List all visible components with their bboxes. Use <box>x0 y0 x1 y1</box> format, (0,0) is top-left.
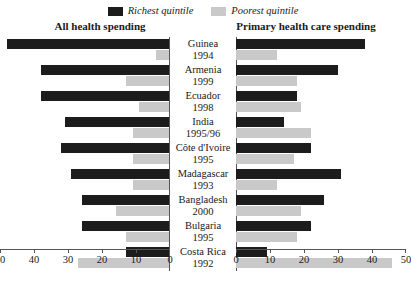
axis-tick-label: 10 <box>265 254 276 265</box>
axis-tick <box>304 249 305 253</box>
chart-row-left-panel <box>0 37 170 63</box>
axis-tick-label: 30 <box>333 254 344 265</box>
axis-tick <box>405 249 406 253</box>
axis-rule-left <box>169 219 170 245</box>
category-label: Côte d'Ivoire1995 <box>170 141 236 167</box>
bar-poorest-primary-health-care-spending <box>236 102 301 112</box>
chart-plot-area: Guinea1994Armenia1999Ecuador1998India199… <box>0 37 406 249</box>
category-label-year: 2000 <box>170 206 236 218</box>
chart-row-left-panel <box>0 193 170 219</box>
panel-title-all-health-spending: All health spending <box>0 20 200 32</box>
bar-poorest-primary-health-care-spending <box>236 206 301 216</box>
axis-tick-label: 50 <box>401 254 411 265</box>
bar-richest-all-health-spending <box>82 221 170 231</box>
category-label: India1995/96 <box>170 115 236 141</box>
bar-poorest-all-health-spending <box>133 154 170 164</box>
bar-richest-primary-health-care-spending <box>236 195 324 205</box>
bar-poorest-all-health-spending <box>126 76 170 86</box>
bar-richest-all-health-spending <box>7 39 170 49</box>
chart-row: Guinea1994 <box>0 37 406 63</box>
bar-poorest-primary-health-care-spending <box>236 50 277 60</box>
chart-row: Armenia1999 <box>0 63 406 89</box>
axis-tick-label: 30 <box>63 254 74 265</box>
axis-tick <box>136 249 137 253</box>
chart-row-right-panel <box>236 141 406 167</box>
chart-row: Bulgaria1995 <box>0 219 406 245</box>
axis-tick <box>169 249 170 253</box>
axis-tick-label: 20 <box>299 254 310 265</box>
axis-tick-label: 40 <box>367 254 378 265</box>
axis-tick-label: 50 <box>0 254 5 265</box>
chart-legend: Richest quintile Poorest quintile <box>0 0 406 20</box>
axis-tick-label: 10 <box>131 254 142 265</box>
axis-tick-label: 0 <box>233 254 238 265</box>
axis-tick-label: 20 <box>97 254 108 265</box>
axis-tick <box>338 249 339 253</box>
chart-row: Ecuador1998 <box>0 89 406 115</box>
bar-richest-primary-health-care-spending <box>236 39 365 49</box>
bar-poorest-primary-health-care-spending <box>236 154 294 164</box>
category-label-year: 1993 <box>170 180 236 192</box>
bar-richest-all-health-spending <box>61 143 170 153</box>
category-label: Bulgaria1995 <box>170 219 236 245</box>
axis-rule-left <box>169 141 170 167</box>
category-label-year: 1994 <box>170 50 236 62</box>
axis-tick <box>34 249 35 253</box>
bar-poorest-primary-health-care-spending <box>236 232 297 242</box>
bar-richest-primary-health-care-spending <box>236 65 338 75</box>
chart-row: Madagascar1993 <box>0 167 406 193</box>
axis-tick-label: 40 <box>29 254 40 265</box>
chart-row-right-panel <box>236 193 406 219</box>
axis-tick <box>0 249 1 253</box>
chart-row-left-panel <box>0 115 170 141</box>
bar-richest-all-health-spending <box>65 117 170 127</box>
chart-row-left-panel <box>0 141 170 167</box>
chart-row: India1995/96 <box>0 115 406 141</box>
bar-poorest-primary-health-care-spending <box>236 76 297 86</box>
bar-richest-primary-health-care-spending <box>236 221 311 231</box>
category-label-year: 1995/96 <box>170 128 236 140</box>
chart-row-left-panel <box>0 89 170 115</box>
chart-row-right-panel <box>236 167 406 193</box>
bar-poorest-primary-health-care-spending <box>236 128 311 138</box>
category-label-year: 1999 <box>170 76 236 88</box>
legend-entry-poorest: Poorest quintile <box>211 6 298 17</box>
bar-richest-primary-health-care-spending <box>236 143 311 153</box>
axis-line-right <box>236 249 406 250</box>
category-label-country: Ecuador <box>170 90 236 102</box>
bar-poorest-all-health-spending <box>156 50 170 60</box>
category-label-country: Bulgaria <box>170 220 236 232</box>
bar-poorest-all-health-spending <box>133 180 170 190</box>
bar-poorest-all-health-spending <box>133 128 170 138</box>
axis-tick-label: 0 <box>167 254 172 265</box>
axis-rule-left <box>169 193 170 219</box>
category-label-year: 1998 <box>170 102 236 114</box>
axis-tick <box>236 249 237 253</box>
chart-row-right-panel <box>236 63 406 89</box>
bar-poorest-all-health-spending <box>116 206 170 216</box>
bar-richest-all-health-spending <box>41 91 170 101</box>
category-label-country: Bangladesh <box>170 194 236 206</box>
legend-entry-richest: Richest quintile <box>108 6 194 17</box>
panel-headings: All health spending Primary health care … <box>0 20 406 37</box>
category-label-country: Côte d'Ivoire <box>170 142 236 154</box>
axis-rule-left <box>169 37 170 63</box>
legend-swatch-richest-icon <box>108 7 123 16</box>
category-label-country: Guinea <box>170 38 236 50</box>
category-label-country: Armenia <box>170 64 236 76</box>
bar-richest-primary-health-care-spending <box>236 91 297 101</box>
legend-label-poorest: Poorest quintile <box>231 6 298 17</box>
legend-swatch-poorest-icon <box>211 7 226 16</box>
chart-row-right-panel <box>236 37 406 63</box>
bar-richest-all-health-spending <box>71 169 170 179</box>
chart-row-right-panel <box>236 219 406 245</box>
chart-axes: 50403020100 01020304050 <box>0 249 406 275</box>
axis-tick <box>270 249 271 253</box>
chart-row: Côte d'Ivoire1995 <box>0 141 406 167</box>
category-label-country: Madagascar <box>170 168 236 180</box>
category-label: Bangladesh2000 <box>170 193 236 219</box>
axis-rule-left <box>169 89 170 115</box>
axis-tick <box>102 249 103 253</box>
category-label: Armenia1999 <box>170 63 236 89</box>
x-axis-left: 50403020100 <box>0 249 170 275</box>
